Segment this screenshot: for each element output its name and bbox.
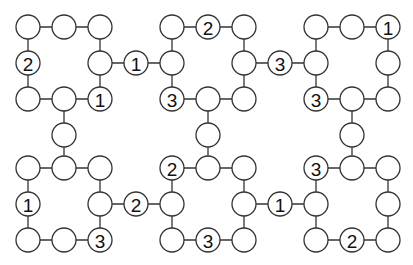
empty-node-e6[interactable] [160,228,184,252]
circle-icon [232,156,256,180]
empty-node-e4[interactable] [160,192,184,216]
circle-icon [304,51,328,75]
clue-number: 1 [95,90,106,111]
empty-node-d1[interactable] [16,156,40,180]
clue-node-r3[interactable]: 1 [376,15,400,39]
empty-node-b3[interactable] [232,15,256,39]
clue-node-c3[interactable]: 3 [268,51,292,75]
empty-node-f2[interactable] [340,156,364,180]
empty-node-b8[interactable] [232,87,256,111]
circle-icon [52,156,76,180]
empty-node-c2[interactable] [52,123,76,147]
circle-icon [52,15,76,39]
empty-node-a1[interactable] [16,15,40,39]
clue-number: 1 [275,195,286,216]
empty-node-d5[interactable] [88,192,112,216]
clue-node-a4[interactable]: 2 [16,51,40,75]
clue-node-b6[interactable]: 3 [160,87,184,111]
clue-number: 3 [167,90,178,111]
circle-icon [160,51,184,75]
clue-number: 3 [311,90,322,111]
circle-icon [340,123,364,147]
clue-node-f7[interactable]: 2 [340,228,364,252]
clue-node-d4[interactable]: 1 [16,192,40,216]
circle-icon [232,51,256,75]
empty-node-a2[interactable] [52,15,76,39]
circle-icon [160,192,184,216]
clue-node-c7[interactable]: 1 [268,192,292,216]
circle-icon [304,192,328,216]
empty-node-a7[interactable] [52,87,76,111]
clue-node-b2[interactable]: 2 [196,15,220,39]
circle-icon [16,228,40,252]
clue-number: 2 [167,159,178,180]
circle-icon [304,15,328,39]
circle-icon [88,156,112,180]
clue-node-c1[interactable]: 1 [124,51,148,75]
clue-node-d8[interactable]: 3 [88,228,112,252]
circle-icon [88,51,112,75]
empty-node-f6[interactable] [304,228,328,252]
circle-icon [196,87,220,111]
empty-node-b5[interactable] [232,51,256,75]
empty-node-b7[interactable] [196,87,220,111]
circle-icon [340,156,364,180]
circle-icon [376,51,400,75]
empty-node-r1[interactable] [304,15,328,39]
empty-node-a5[interactable] [88,51,112,75]
circle-icon [196,123,220,147]
empty-node-f3[interactable] [376,156,400,180]
empty-node-b1[interactable] [160,15,184,39]
empty-node-c5[interactable] [340,123,364,147]
empty-node-r8[interactable] [376,87,400,111]
empty-node-r7[interactable] [340,87,364,111]
empty-node-e3[interactable] [232,156,256,180]
circle-icon [196,156,220,180]
clue-number: 2 [131,195,142,216]
circle-icon [376,192,400,216]
circle-icon [88,192,112,216]
empty-node-d6[interactable] [16,228,40,252]
clue-number: 1 [383,18,394,39]
empty-node-r4[interactable] [304,51,328,75]
empty-node-b4[interactable] [160,51,184,75]
node-layer: 2112331313223132 [16,15,400,252]
empty-node-f8[interactable] [376,228,400,252]
circle-icon [376,87,400,111]
clue-node-e7[interactable]: 3 [196,228,220,252]
clue-node-e1[interactable]: 2 [160,156,184,180]
empty-node-e8[interactable] [232,228,256,252]
empty-node-r5[interactable] [376,51,400,75]
circle-icon [16,156,40,180]
clue-node-r6[interactable]: 3 [304,87,328,111]
circle-icon [232,15,256,39]
clue-number: 2 [203,18,214,39]
empty-node-c4[interactable] [196,123,220,147]
empty-node-e2[interactable] [196,156,220,180]
circle-icon [52,123,76,147]
empty-node-r2[interactable] [340,15,364,39]
empty-node-f5[interactable] [376,192,400,216]
circle-icon [376,156,400,180]
clue-number: 2 [23,54,34,75]
empty-node-e5[interactable] [232,192,256,216]
clue-number: 3 [95,231,106,252]
circle-icon [88,15,112,39]
circle-icon [340,15,364,39]
empty-node-a6[interactable] [16,87,40,111]
empty-node-d3[interactable] [88,156,112,180]
empty-node-d2[interactable] [52,156,76,180]
clue-node-a8[interactable]: 1 [88,87,112,111]
circle-icon [160,228,184,252]
clue-node-c6[interactable]: 2 [124,192,148,216]
clue-number: 3 [275,54,286,75]
circle-icon [16,87,40,111]
clue-number: 1 [23,195,34,216]
empty-node-a3[interactable] [88,15,112,39]
empty-node-d7[interactable] [52,228,76,252]
circle-icon [376,228,400,252]
clue-number: 1 [131,54,142,75]
clue-number: 2 [347,231,358,252]
empty-node-f4[interactable] [304,192,328,216]
clue-node-f1[interactable]: 3 [304,156,328,180]
